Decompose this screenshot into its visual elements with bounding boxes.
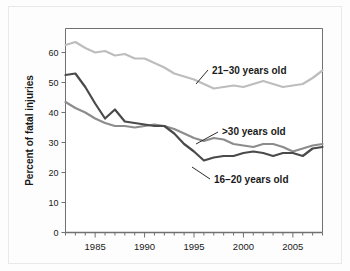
- y-tick-label: 0: [53, 228, 58, 238]
- y-tick-label: 50: [48, 78, 58, 88]
- series-annotation-label: 16–20 years old: [214, 174, 289, 185]
- y-tick-label: 10: [48, 198, 58, 208]
- x-tick-label: 1995: [183, 241, 204, 252]
- x-tick-label: 2005: [282, 241, 303, 252]
- y-tick-label: 30: [48, 138, 58, 148]
- x-tick-label: 2000: [233, 241, 254, 252]
- series-annotation-label: 21–30 years old: [212, 65, 287, 76]
- x-tick-label: 1990: [134, 241, 155, 252]
- series-annotation-label: >30 years old: [222, 126, 286, 137]
- x-axis: 19851990199520002005: [66, 233, 323, 252]
- chart-figure: 010203040506019851990199520002005Percent…: [0, 0, 350, 271]
- y-tick-label: 20: [48, 168, 58, 178]
- y-tick-label: 40: [48, 108, 58, 118]
- y-tick-label: 60: [48, 48, 58, 58]
- x-tick-label: 1985: [85, 241, 106, 252]
- y-axis: 0102030405060: [48, 48, 65, 238]
- y-axis-title: Percent of fatal injuries: [24, 75, 35, 186]
- line-chart: 010203040506019851990199520002005Percent…: [0, 0, 350, 271]
